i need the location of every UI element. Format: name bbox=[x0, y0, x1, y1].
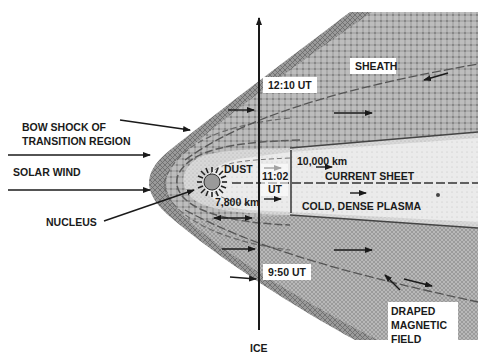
draped-field-label-line2: MAGNETIC bbox=[391, 319, 447, 331]
time-1102-label-line1: 11:02 bbox=[262, 170, 288, 182]
current-sheet-label: CURRENT SHEET bbox=[325, 170, 415, 182]
dist-7800-label: 7,800 km bbox=[215, 196, 259, 208]
nucleus-icon bbox=[197, 167, 227, 197]
bow-shock-label-line2: TRANSITION REGION bbox=[22, 135, 131, 147]
time-1210-label: 12:10 UT bbox=[268, 79, 312, 91]
solar-wind-label: SOLAR WIND bbox=[13, 166, 81, 178]
nucleus-label: NUCLEUS bbox=[46, 216, 97, 228]
time-1102-label-line2: UT bbox=[268, 183, 283, 195]
draped-field-label-line1: DRAPED bbox=[391, 305, 436, 317]
cold-plasma-label: COLD, DENSE PLASMA bbox=[302, 200, 421, 212]
comet-diagram: BOW SHOCK OF TRANSITION REGION SOLAR WIN… bbox=[0, 0, 483, 362]
bow-shock-pointer bbox=[120, 120, 190, 130]
plasma-dot bbox=[436, 193, 440, 197]
draped-field-label-line3: FIELD bbox=[391, 333, 422, 345]
sheath-label: SHEATH bbox=[355, 60, 397, 72]
ice-label: ICE bbox=[250, 342, 268, 354]
bow-shock-label-line1: BOW SHOCK OF bbox=[22, 121, 107, 133]
dust-label: DUST bbox=[224, 163, 253, 175]
dist-10000-label: 10,000 km bbox=[297, 155, 347, 167]
time-0950-label: 9:50 UT bbox=[268, 266, 307, 278]
